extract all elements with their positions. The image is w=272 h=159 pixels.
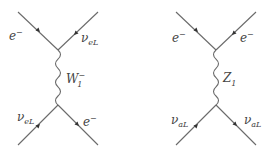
feynman-diagrams: e− νeL W1− νeL e− e− e− Z1 νaL νaL: [0, 0, 272, 159]
boson-wavy-line: [214, 50, 219, 105]
diagram-w-exchange: e− νeL W1− νeL e−: [9, 12, 98, 145]
diagram-z-exchange: e− e− Z1 νaL νaL: [171, 12, 261, 145]
label-top-right: e−: [240, 30, 254, 45]
label-bottom-right: e−: [83, 114, 97, 129]
label-top-left: e−: [9, 28, 23, 43]
label-top-right: νeL: [81, 31, 98, 47]
boson-wavy-line: [56, 50, 61, 105]
label-top-left: e−: [172, 30, 186, 45]
label-bottom-right: νaL: [244, 113, 261, 129]
label-bottom-left: νeL: [17, 110, 34, 126]
label-bottom-left: νaL: [171, 113, 188, 129]
label-mediator: W1−: [66, 71, 85, 89]
label-mediator: Z1: [222, 71, 236, 88]
